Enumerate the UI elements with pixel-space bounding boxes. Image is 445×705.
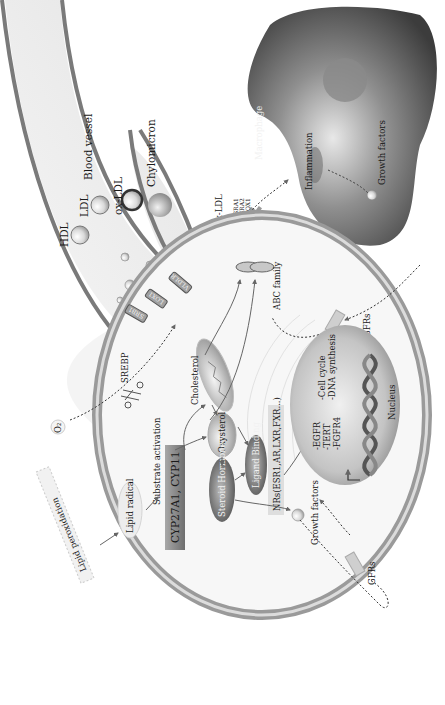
ox-ldl-particle [122,190,142,210]
ldl-label: LDL [78,195,90,217]
inflammation-label: Inflammation [304,132,314,190]
srebp-label: SREBP [120,352,130,383]
cyp-enzyme-label: CYP27A1, CYP11 [169,451,181,543]
nucleus-body [290,325,400,485]
cholesterol-metabolism-diagram: Blood vessel HDL LDL ox-LDL Chylomicron … [0,0,445,705]
nucleus-process-dna-synthesis: -DNA synthesis [327,334,337,400]
blood-vessel-label: Blood vessel [82,113,94,180]
chylomicron-particle [148,193,172,217]
ox-ldl-label: ox-LDL [112,177,124,215]
chylomicron-label: Chylomicron [145,119,157,187]
steroid-hormone-label: Steroid Hormone [217,442,227,517]
cholesterol-label: Cholesterol [190,355,200,405]
hdl-label: HDL [58,222,70,247]
ligand-binding-label: Ligand Binding [251,421,261,488]
nuclear-receptors-label: NRs(ESR1,AR,LXR,FXR...) [272,397,282,511]
nucleus: -EGFR -TERT -FGFR4 -Cell cycle -DNA synt… [290,325,400,485]
hdl-particle [71,226,89,244]
nucleus-process-cell-cycle: -Cell cycle [317,355,327,400]
macrophage-growth-factor [367,190,377,200]
lipid-peroxidation-label: Lipid peroxidation [49,496,88,574]
o2-label: O₂ [53,423,63,433]
nucleus-target-tert: -TERT [322,423,332,450]
macrophage-growth-factors-label: Growth factors [377,120,387,185]
ldl-particle [91,196,109,214]
nucleus-label: Nucleus [387,385,397,420]
macrophage-label: Macrophage [254,106,264,160]
nucleus-target-egfr: -EGFR [312,421,322,450]
nucleus-target-fgfr4: -FGFR4 [332,417,342,450]
macrophage-body [248,7,437,246]
peroxidation-to-radical-arrow [100,533,118,545]
abc-transporter [236,262,274,272]
abc-family-label: ABC family [272,262,282,311]
macrophage-nucleus [323,58,367,102]
cell-growth-factor [292,509,304,521]
macrophage: Macrophage Inflammation Growth factors S… [232,7,437,246]
diagram-canvas: Blood vessel HDL LDL ox-LDL Chylomicron … [0,0,445,705]
cell-growth-factors-label: Growth factors [310,480,320,545]
substrate-activation-label: Substrate activation [152,417,162,505]
lipid-radical-label: Lipid radical [125,478,135,533]
